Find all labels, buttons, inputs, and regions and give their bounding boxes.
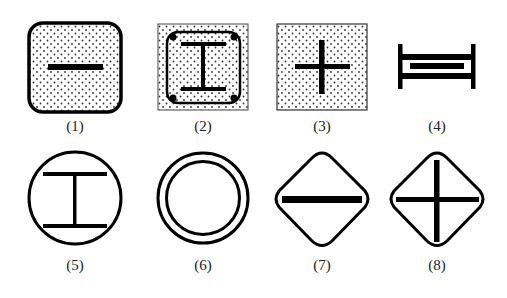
symbol-6-label: (6) xyxy=(194,257,212,274)
symbol-6-double-circle-icon xyxy=(158,153,248,243)
symbol-7-label: (7) xyxy=(313,257,331,274)
symbol-4-label: (4) xyxy=(428,118,446,135)
symbol-2-i-beam-square-icon xyxy=(158,24,248,110)
symbol-7-minus-diamond-icon xyxy=(276,153,368,246)
symbol-diagram xyxy=(0,0,507,298)
symbol-8-label: (8) xyxy=(428,257,446,274)
symbol-3-plus-square-icon xyxy=(277,24,367,110)
symbol-1-minus-rounded-square-icon xyxy=(29,23,121,112)
symbol-5-i-beam-circle-icon xyxy=(29,152,121,244)
symbol-5-label: (5) xyxy=(66,257,84,274)
symbol-2-label: (2) xyxy=(194,118,212,135)
symbol-8-cross-diamond-icon xyxy=(391,153,483,246)
symbol-3-label: (3) xyxy=(313,118,331,135)
symbol-1-label: (1) xyxy=(66,118,84,135)
symbol-4-h-frame-icon xyxy=(398,44,476,89)
